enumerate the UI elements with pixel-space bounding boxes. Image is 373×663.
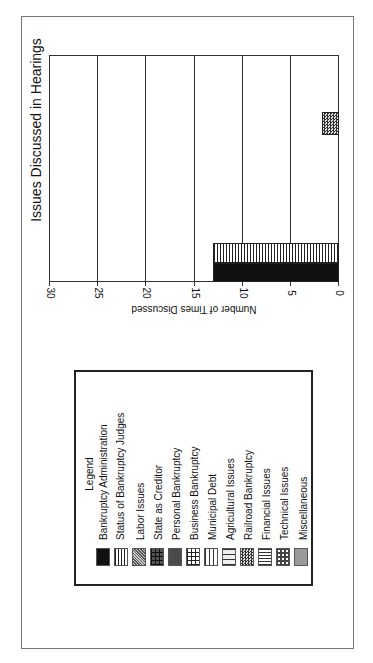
legend-label: Status of Bankruptcy Judges bbox=[115, 413, 126, 540]
tick-label: 10 bbox=[238, 287, 249, 298]
tick-15 bbox=[194, 282, 195, 286]
tick-label: 15 bbox=[190, 287, 201, 298]
gridline-15 bbox=[194, 55, 195, 282]
legend-label: Technical Issues bbox=[279, 467, 290, 540]
legend-label: Financial Issues bbox=[261, 468, 272, 540]
legend-label: Business Bankruptcy bbox=[189, 447, 200, 540]
swatch-personal-bankruptcy bbox=[168, 548, 182, 566]
tick-label: 0 bbox=[334, 290, 345, 296]
bar-bankruptcy-administration bbox=[213, 263, 339, 282]
legend-label: Personal Bankruptcy bbox=[171, 448, 182, 540]
tick-label: 5 bbox=[286, 290, 297, 296]
legend-label: Labor Issues bbox=[135, 483, 146, 540]
swatch-railroad-bankruptcy bbox=[240, 548, 254, 566]
swatch-state-as-creditor bbox=[150, 548, 164, 566]
chart-title: Issues Discussed in Hearings bbox=[28, 38, 44, 222]
tick-label: 25 bbox=[93, 287, 104, 298]
legend-label: Miscellaneous bbox=[298, 477, 309, 540]
tick-30 bbox=[49, 282, 50, 286]
swatch-financial-issues bbox=[258, 548, 272, 566]
value-axis-title: Number of Times Discussed bbox=[131, 304, 256, 315]
legend-title: Legend bbox=[84, 457, 95, 490]
legend-label: Municipal Debt bbox=[207, 474, 218, 540]
tick-0 bbox=[338, 282, 339, 286]
swatch-miscellaneous bbox=[294, 548, 308, 566]
tick-label: 20 bbox=[141, 287, 152, 298]
legend-label: Railroad Bankruptcy bbox=[243, 450, 254, 540]
swatch-municipal-debt bbox=[204, 548, 218, 566]
legend-label: Agricultural Issues bbox=[225, 458, 236, 540]
gridline-20 bbox=[145, 55, 146, 282]
swatch-status-of-bankruptcy-judges bbox=[114, 548, 128, 566]
swatch-bankruptcy-administration bbox=[96, 548, 110, 566]
tick-5 bbox=[290, 282, 291, 286]
swatch-labor-issues bbox=[132, 548, 146, 566]
legend-label: State as Creditor bbox=[153, 465, 164, 540]
bar-railroad-bankruptcy bbox=[322, 112, 339, 135]
swatch-agricultural-issues bbox=[222, 548, 236, 566]
tick-25 bbox=[97, 282, 98, 286]
gridline-25 bbox=[97, 55, 98, 282]
bar-status-of-bankruptcy-judges bbox=[213, 243, 339, 263]
swatch-technical-issues bbox=[276, 548, 290, 566]
swatch-business-bankruptcy bbox=[186, 548, 200, 566]
tick-label: 30 bbox=[45, 287, 56, 298]
tick-10 bbox=[242, 282, 243, 286]
tick-20 bbox=[145, 282, 146, 286]
legend-label: Bankruptcy Administration bbox=[98, 424, 109, 540]
